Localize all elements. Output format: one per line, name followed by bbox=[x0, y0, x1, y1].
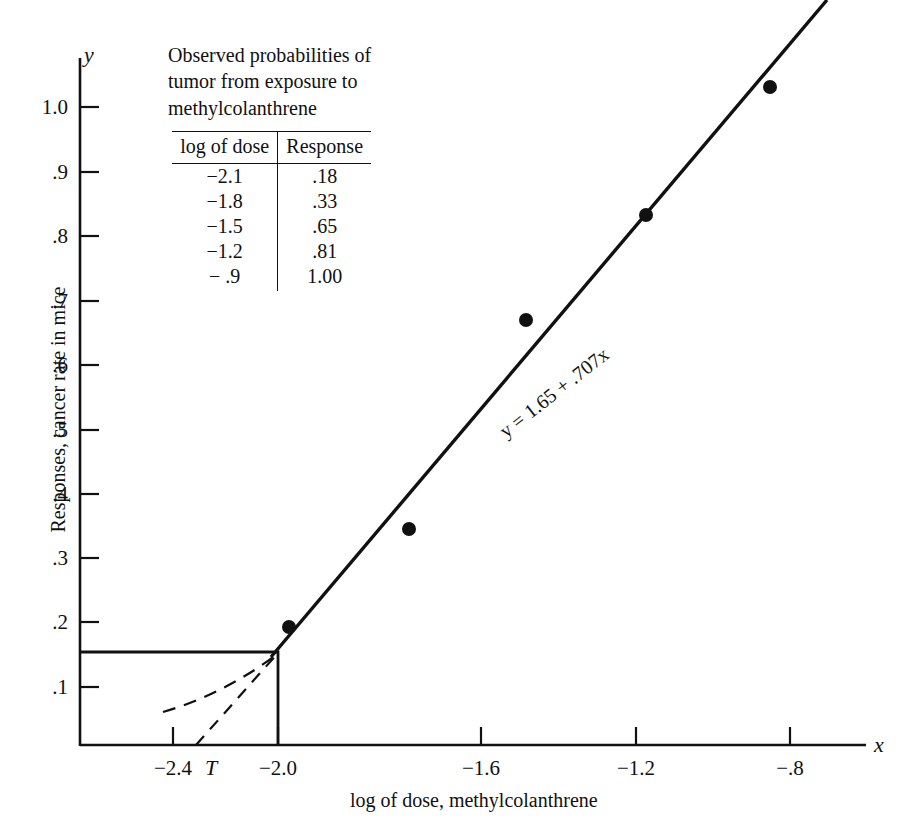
figure-canvas: y x 1.0 .9 .8 .7 .6 .5 .4 .3 .2 .1 −2.4 … bbox=[0, 0, 909, 824]
y-axis-title: Responses, cancer rate in mice bbox=[47, 260, 70, 560]
dashed-curve-response bbox=[163, 653, 278, 712]
threshold-box bbox=[80, 652, 278, 745]
data-point bbox=[282, 620, 296, 634]
y-tick-label: .8 bbox=[20, 226, 68, 247]
y-tick-label: .2 bbox=[20, 612, 68, 633]
data-point bbox=[519, 313, 533, 327]
threshold-marker-label: T bbox=[205, 757, 217, 779]
x-tick-label: −2.4 bbox=[154, 758, 192, 779]
table-row: − .9 1.00 bbox=[172, 264, 371, 291]
data-point bbox=[639, 208, 653, 222]
plot-area bbox=[0, 0, 909, 824]
x-tick-label: −1.6 bbox=[462, 758, 500, 779]
x-axis-ticks bbox=[173, 727, 790, 745]
x-tick-label: −.8 bbox=[776, 758, 804, 779]
figure-caption: Observed probabilities of tumor from exp… bbox=[168, 42, 418, 121]
cell-response: .18 bbox=[278, 164, 371, 190]
table-row: −1.8 .33 bbox=[172, 189, 371, 214]
cell-response: 1.00 bbox=[278, 264, 371, 291]
cell-response: .81 bbox=[278, 239, 371, 264]
data-point bbox=[763, 80, 777, 94]
y-axis-symbol: y bbox=[84, 44, 94, 66]
table-row: −1.5 .65 bbox=[172, 214, 371, 239]
x-tick-label: −1.2 bbox=[617, 758, 655, 779]
cell-response: .65 bbox=[278, 214, 371, 239]
dashed-threshold-response bbox=[196, 653, 278, 745]
cell-dose: −1.2 bbox=[172, 239, 278, 264]
cell-dose: −1.5 bbox=[172, 214, 278, 239]
y-tick-label: .9 bbox=[20, 162, 68, 183]
y-tick-label: .1 bbox=[20, 677, 68, 698]
data-point bbox=[402, 522, 416, 536]
table-header-row: log of dose Response bbox=[172, 132, 371, 164]
table-header-response: Response bbox=[278, 132, 371, 164]
y-axis-ticks bbox=[80, 107, 99, 687]
cell-response: .33 bbox=[278, 189, 371, 214]
cell-dose: − .9 bbox=[172, 264, 278, 291]
cell-dose: −1.8 bbox=[172, 189, 278, 214]
x-tick-label: −2.0 bbox=[259, 758, 297, 779]
table-row: −1.2 .81 bbox=[172, 239, 371, 264]
x-axis-title: log of dose, methylcolanthrene bbox=[350, 790, 598, 810]
table-row: −2.1 .18 bbox=[172, 164, 371, 190]
y-tick-label: 1.0 bbox=[20, 97, 68, 118]
table-header-dose: log of dose bbox=[172, 132, 278, 164]
x-axis-symbol: x bbox=[874, 734, 884, 756]
observations-table: log of dose Response −2.1 .18 −1.8 .33 −… bbox=[172, 131, 371, 291]
cell-dose: −2.1 bbox=[172, 164, 278, 190]
